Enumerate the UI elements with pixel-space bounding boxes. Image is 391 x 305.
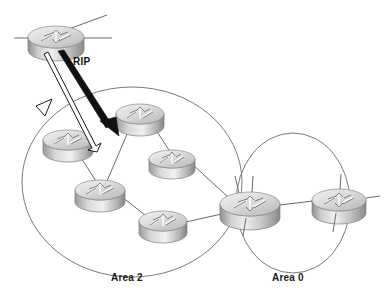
link-abr-to-east-router: [280, 201, 313, 205]
stub-east-right: [366, 196, 380, 198]
area-label-area-2: Area 2: [111, 272, 143, 283]
router-abr-border[interactable]: [220, 192, 280, 230]
network-diagram: RIP Area 2 Area 0: [0, 0, 391, 305]
link-center-to-south: [122, 197, 145, 215]
stub-abr-up-right: [252, 176, 253, 192]
link-east-to-abr: [192, 164, 228, 197]
router-area0-east[interactable]: [312, 189, 366, 224]
router-area2-center[interactable]: [75, 180, 125, 212]
diagram-canvas: [0, 0, 391, 305]
stub-east-up: [340, 174, 341, 189]
router-area2-east[interactable]: [149, 150, 195, 179]
router-area2-north[interactable]: [116, 104, 164, 136]
area-boundaries: [22, 87, 350, 277]
area-label-area-0: Area 0: [272, 272, 304, 283]
protocol-label-rip: RIP: [73, 56, 90, 67]
router-area2-south[interactable]: [139, 211, 187, 243]
